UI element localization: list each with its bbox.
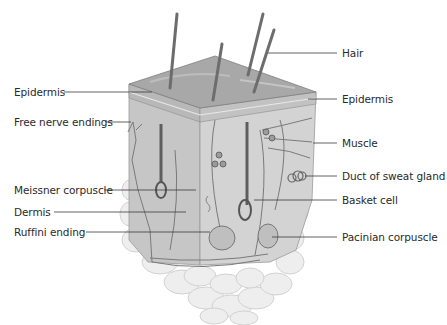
skin-illustration [0,0,447,325]
label-dermis: Dermis [14,206,51,218]
label-ruffini-ending: Ruffini ending [14,226,85,238]
skin-diagram: Epidermis Free nerve endings Meissner co… [0,0,447,325]
label-hair: Hair [342,47,363,59]
label-epidermis-right: Epidermis [342,93,393,105]
label-pacinian-corpuscle: Pacinian corpuscle [342,231,438,243]
label-free-nerve-endings: Free nerve endings [14,116,113,128]
label-muscle: Muscle [342,137,378,149]
label-meissner-corpuscle: Meissner corpuscle [14,184,113,196]
label-epidermis-left: Epidermis [14,86,65,98]
label-duct-of-sweat-gland: Duct of sweat gland [342,170,445,182]
label-basket-cell: Basket cell [342,194,398,206]
